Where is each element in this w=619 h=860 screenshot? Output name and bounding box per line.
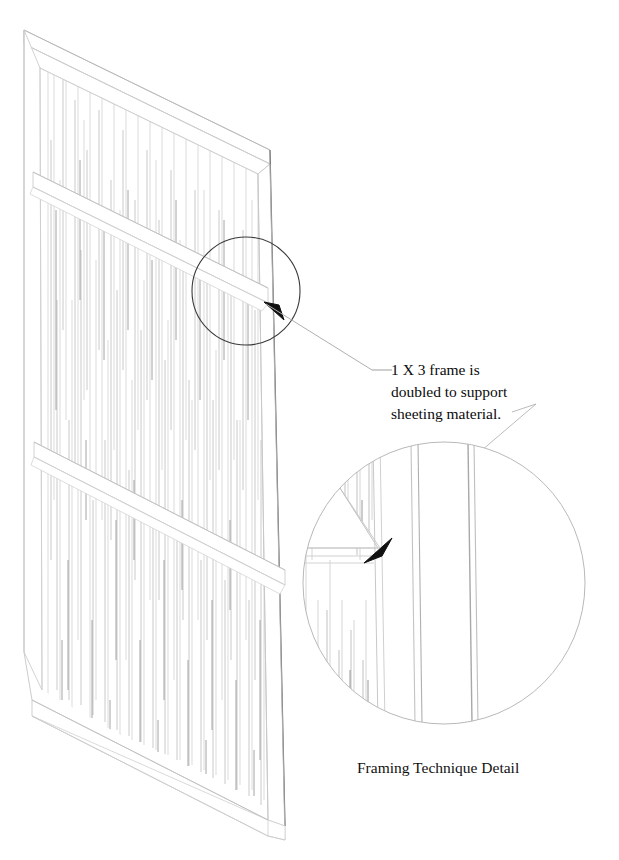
detail-leader-stub: [512, 404, 536, 412]
annotation-line-2: doubled to support: [391, 383, 508, 400]
annotation-block: 1 X 3 frame is doubled to support sheeti…: [391, 361, 508, 422]
annotation-line-1: 1 X 3 frame is: [391, 361, 480, 378]
drawing-canvas: 1 X 3 frame is doubled to support sheeti…: [0, 0, 619, 860]
panel-assembly: [24, 30, 285, 840]
detail-caption: Framing Technique Detail: [357, 759, 519, 776]
annotation-line-3: sheeting material.: [391, 405, 501, 422]
framing-technique-drawing: 1 X 3 frame is doubled to support sheeti…: [0, 0, 619, 860]
panel-left-stile: [24, 30, 42, 690]
detail-region: [303, 442, 585, 724]
callout-leader-line: [266, 304, 372, 370]
